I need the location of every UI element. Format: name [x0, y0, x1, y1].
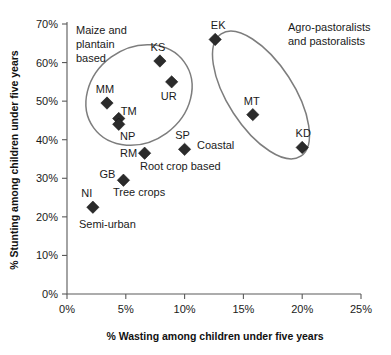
tree-crops-group-label: Tree crops: [113, 186, 166, 198]
data-point-label-rm: RM: [120, 147, 137, 159]
y-tick-label: 40%: [36, 134, 58, 146]
data-point-label-np: NP: [120, 130, 135, 142]
data-point-mm[interactable]: [101, 97, 113, 109]
data-point-ni[interactable]: [87, 201, 99, 213]
coastal-group-label: Coastal: [197, 139, 234, 151]
semi-urban-group-label: Semi-urban: [79, 218, 136, 230]
x-tick-label: 10%: [174, 303, 196, 315]
axis-lines: [67, 22, 361, 294]
y-tick-label: 50%: [36, 95, 58, 107]
data-point-ur[interactable]: [165, 76, 177, 88]
maize-plantain-group-label: based: [76, 52, 106, 64]
x-axis-title: % Wasting among children under five year…: [106, 330, 323, 342]
y-tick-label: 30%: [36, 172, 58, 184]
y-tick-label: 10%: [36, 249, 58, 261]
data-point-sp[interactable]: [178, 143, 190, 155]
y-tick-label: 0%: [42, 288, 58, 300]
agro-pastoralist-group-label: and pastoralists: [288, 35, 366, 47]
data-point-label-ek: EK: [211, 19, 226, 31]
data-point-label-mm: MM: [96, 83, 114, 95]
y-tick-label: 70%: [36, 18, 58, 30]
data-point-label-ur: UR: [161, 90, 177, 102]
data-point-label-tm: TM: [121, 105, 137, 117]
plot-area: 0%10%20%30%40%50%60%70%0%5%10%15%20%25%K…: [0, 0, 391, 355]
data-point-label-gb: GB: [99, 168, 115, 180]
data-point-label-ks: KS: [151, 41, 166, 53]
maize-plantain-group-label: Maize and: [76, 24, 127, 36]
x-tick-label: 5%: [118, 303, 134, 315]
agro-pastoralist-group-label: Agro-pastoralists: [288, 21, 371, 33]
maize-plantain-group-label: plantain: [76, 38, 115, 50]
data-point-ks[interactable]: [154, 55, 166, 67]
y-axis-title: % Stunting among children under five yea…: [8, 50, 20, 270]
scatter-chart: 0%10%20%30%40%50%60%70%0%5%10%15%20%25%K…: [0, 0, 391, 355]
data-point-label-kd: KD: [296, 127, 311, 139]
data-point-mt[interactable]: [247, 108, 259, 120]
y-tick-label: 20%: [36, 211, 58, 223]
x-tick-label: 15%: [232, 303, 254, 315]
data-point-kd[interactable]: [296, 141, 308, 153]
x-tick-label: 20%: [291, 303, 313, 315]
data-point-label-sp: SP: [175, 129, 190, 141]
data-point-label-ni: NI: [81, 187, 92, 199]
data-point-rm[interactable]: [138, 147, 150, 159]
x-tick-label: 0%: [59, 303, 75, 315]
y-tick-label: 60%: [36, 57, 58, 69]
data-point-label-mt: MT: [244, 95, 260, 107]
data-point-gb[interactable]: [117, 174, 129, 186]
root-crop-group-label: Root crop based: [140, 160, 221, 172]
x-tick-label: 25%: [350, 303, 372, 315]
